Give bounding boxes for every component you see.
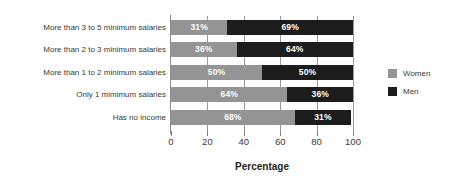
bar-segment-men: 31% — [295, 110, 351, 125]
legend-label: Men — [403, 84, 419, 99]
bar-value-label: 69% — [227, 20, 353, 35]
chart-row: More than 1 to 2 minimum salaries50%50% — [171, 65, 353, 80]
chart-row: Only 1 mimimum salaries64%36% — [171, 87, 353, 102]
x-axis-tick-label: 60 — [265, 136, 295, 147]
bar-segment-men: 69% — [227, 20, 353, 35]
bar-segment-women: 31% — [171, 20, 227, 35]
x-axis-tick-label: 0 — [156, 136, 186, 147]
bar-value-label: 31% — [295, 110, 351, 125]
stacked-bar-chart: More than 3 to 5 minimum salaries31%69%M… — [0, 0, 456, 189]
gridline — [353, 16, 354, 132]
bar-value-label: 31% — [171, 20, 227, 35]
y-axis-category-label: More than 1 to 2 minimum salaries — [6, 65, 166, 80]
bar-segment-men: 50% — [262, 65, 353, 80]
x-axis-tick-label: 80 — [302, 136, 332, 147]
bar-segment-women: 64% — [171, 87, 287, 102]
bar-value-label: 64% — [171, 87, 287, 102]
bar-value-label: 64% — [237, 42, 353, 57]
bar-value-label: 36% — [171, 42, 237, 57]
bar-segment-women: 50% — [171, 65, 262, 80]
y-axis-category-label: More than 3 to 5 minimum salaries — [6, 20, 166, 35]
y-axis-category-label: More than 2 to 3 minimum salaries — [6, 42, 166, 57]
bar-value-label: 68% — [171, 110, 295, 125]
bar-segment-men: 64% — [237, 42, 353, 57]
x-axis-tick-label: 100 — [338, 136, 368, 147]
y-axis-category-label: Has no income — [6, 110, 166, 125]
plot-area: More than 3 to 5 minimum salaries31%69%M… — [171, 16, 353, 132]
legend-swatch — [388, 87, 397, 96]
bar-segment-women: 68% — [171, 110, 295, 125]
y-axis-category-label: Only 1 mimimum salaries — [6, 87, 166, 102]
legend-swatch — [388, 69, 397, 78]
chart-row: More than 3 to 5 minimum salaries31%69% — [171, 20, 353, 35]
x-axis-title: Percentage — [171, 161, 353, 172]
legend-label: Women — [403, 66, 430, 81]
bar-value-label: 50% — [171, 65, 262, 80]
bar-segment-men: 36% — [287, 87, 353, 102]
chart-row: Has no income68%31% — [171, 110, 353, 125]
bar-value-label: 50% — [262, 65, 353, 80]
x-axis-tick-label: 40 — [229, 136, 259, 147]
chart-row: More than 2 to 3 minimum salaries36%64% — [171, 42, 353, 57]
bar-value-label: 36% — [287, 87, 353, 102]
bar-segment-women: 36% — [171, 42, 237, 57]
x-axis-tick-label: 20 — [192, 136, 222, 147]
